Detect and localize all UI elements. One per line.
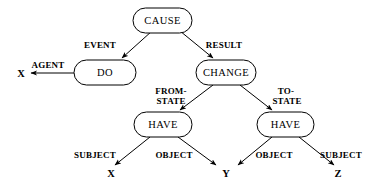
node-do[interactable]: DO	[74, 60, 136, 85]
node-cause-label: CAUSE	[144, 15, 180, 26]
edge-label-event: EVENT	[84, 40, 116, 50]
edge-label-to-state-line1: TO-	[278, 86, 294, 96]
node-do-label: DO	[97, 67, 113, 78]
diagram-canvas: CAUSE DO CHANGE HAVE HAVE EVENT RESULT A…	[0, 0, 391, 187]
node-have-right[interactable]: HAVE	[257, 112, 314, 137]
edge-label-from-state-line1: FROM-	[155, 86, 187, 96]
edge-label-object-right: OBJECT	[255, 150, 292, 160]
node-have-right-label: HAVE	[271, 119, 300, 130]
edge-label-subject-left: SUBJECT	[74, 150, 116, 160]
edge-label-object-left: OBJECT	[155, 150, 192, 160]
edge-label-agent: AGENT	[31, 60, 64, 70]
edge-label-from-state-line2: STATE	[156, 96, 185, 106]
node-have-left[interactable]: HAVE	[134, 112, 192, 137]
leaf-node-x-subject: X	[107, 168, 115, 179]
tree-diagram-svg: CAUSE DO CHANGE HAVE HAVE EVENT RESULT A…	[0, 0, 391, 187]
edge-label-result: RESULT	[206, 40, 242, 50]
node-cause[interactable]: CAUSE	[133, 8, 192, 33]
leaf-node-y: Y	[222, 168, 230, 179]
leaf-node-z: Z	[334, 168, 341, 179]
node-change-label: CHANGE	[203, 67, 249, 78]
node-change[interactable]: CHANGE	[196, 60, 256, 85]
edge-line-subject-left	[115, 137, 150, 165]
leaf-node-x-agent: X	[17, 68, 25, 79]
edge-line-event	[122, 31, 152, 58]
node-have-left-label: HAVE	[148, 119, 177, 130]
edge-label-to-state-line2: STATE	[272, 96, 301, 106]
edge-line-to-state	[240, 85, 272, 110]
edge-label-subject-right: SUBJECT	[320, 150, 362, 160]
